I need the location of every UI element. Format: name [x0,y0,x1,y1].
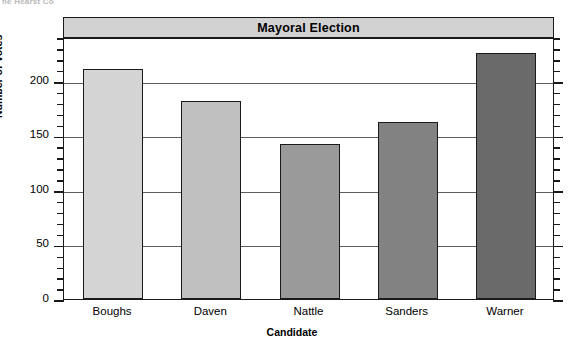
major-tick-right-150 [553,137,563,139]
minor-tick-left-210 [57,71,64,72]
bar-boughs[interactable] [83,69,143,299]
minor-tick-right-130 [553,158,560,159]
minor-tick-left-120 [57,169,64,170]
major-tick-right-50 [553,246,563,248]
chart-title: Mayoral Election [257,21,360,35]
bar-warner[interactable] [476,53,536,299]
y-tick-label-100: 100 [0,183,49,195]
minor-tick-right-60 [553,235,560,236]
minor-tick-left-40 [57,257,64,258]
major-tick-right-0 [553,300,563,302]
minor-tick-left-60 [57,235,64,236]
minor-tick-right-30 [553,268,560,269]
major-tick-right-200 [553,82,563,84]
major-tick-left-150 [54,137,64,139]
minor-tick-left-160 [57,126,64,127]
x-tick-label-daven: Daven [161,305,259,317]
minor-tick-left-90 [57,202,64,203]
chart-title-banner: Mayoral Election [63,17,554,38]
minor-tick-right-20 [553,278,560,279]
minor-tick-right-180 [553,104,560,105]
minor-tick-right-140 [553,147,560,148]
y-tick-label-50: 50 [0,237,49,249]
minor-tick-right-170 [553,115,560,116]
minor-tick-right-110 [553,180,560,181]
minor-tick-left-80 [57,213,64,214]
minor-tick-right-80 [553,213,560,214]
minor-tick-right-240 [553,38,560,39]
x-tick-label-boughs: Boughs [63,305,161,317]
minor-tick-right-70 [553,224,560,225]
minor-tick-right-90 [553,202,560,203]
bar-daven[interactable] [181,101,241,299]
major-tick-left-100 [54,191,64,193]
minor-tick-left-230 [57,49,64,50]
plot-area [63,38,554,300]
y-tick-label-0: 0 [0,292,49,304]
x-tick-label-nattle: Nattle [259,305,357,317]
minor-tick-right-210 [553,71,560,72]
minor-tick-right-40 [553,257,560,258]
minor-tick-left-220 [57,60,64,61]
minor-tick-left-240 [57,38,64,39]
x-axis-title: Candidate [0,326,584,338]
bar-sanders[interactable] [378,122,438,299]
minor-tick-left-110 [57,180,64,181]
minor-tick-right-220 [553,60,560,61]
major-tick-left-0 [54,300,64,302]
x-tick-label-warner: Warner [456,305,554,317]
minor-tick-right-120 [553,169,560,170]
y-tick-label-200: 200 [0,74,49,86]
minor-tick-left-130 [57,158,64,159]
minor-tick-left-180 [57,104,64,105]
y-tick-label-150: 150 [0,128,49,140]
bar-chart-figure: Mayoral Election Number of Votes Candida… [0,0,584,349]
minor-tick-right-10 [553,289,560,290]
major-tick-right-100 [553,191,563,193]
minor-tick-left-30 [57,268,64,269]
minor-tick-right-230 [553,49,560,50]
minor-tick-left-20 [57,278,64,279]
minor-tick-right-190 [553,93,560,94]
minor-tick-right-160 [553,126,560,127]
minor-tick-left-190 [57,93,64,94]
bar-nattle[interactable] [280,144,340,299]
major-tick-left-200 [54,82,64,84]
minor-tick-left-140 [57,147,64,148]
x-tick-label-sanders: Sanders [358,305,456,317]
minor-tick-left-10 [57,289,64,290]
minor-tick-left-170 [57,115,64,116]
minor-tick-left-70 [57,224,64,225]
major-tick-left-50 [54,246,64,248]
